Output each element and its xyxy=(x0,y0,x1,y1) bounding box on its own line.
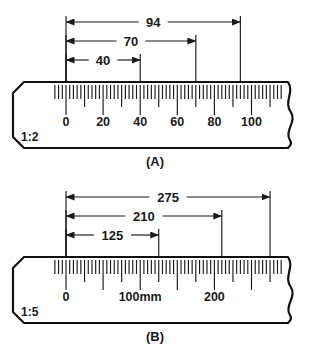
ruler-b-dimensions: 275210125 xyxy=(66,190,270,256)
scale-label-0: 0 xyxy=(63,115,70,129)
ruler-a-dimensions: 947040 xyxy=(66,15,240,81)
ruler-b-scale-ratio: 1:5 xyxy=(21,305,39,319)
ruler-a-caption: (A) xyxy=(146,154,164,169)
scale-label-100: 100 xyxy=(241,115,262,129)
dimension-label-275: 275 xyxy=(157,190,179,205)
dimension-label-125: 125 xyxy=(102,228,124,243)
ruler-b-caption: (B) xyxy=(146,329,164,344)
ruler-a-group: 0204060801001:2(A)947040 xyxy=(13,15,293,169)
ruler-b-group: 0100mm2001:5(B)275210125 xyxy=(13,190,293,344)
ruler-a-scale-ratio: 1:2 xyxy=(21,130,39,144)
figure-root: 0204060801001:2(A)947040 0100mm2001:5(B)… xyxy=(0,0,310,354)
scale-label-0: 0 xyxy=(63,290,70,304)
scale-label-20: 20 xyxy=(96,115,110,129)
dimension-label-40: 40 xyxy=(96,53,110,68)
dimension-label-210: 210 xyxy=(133,209,155,224)
scale-label-40: 40 xyxy=(133,115,147,129)
scale-label-80: 80 xyxy=(207,115,221,129)
technical-drawing-canvas: 0204060801001:2(A)947040 0100mm2001:5(B)… xyxy=(0,0,310,354)
dimension-label-70: 70 xyxy=(124,34,138,49)
scale-label-60: 60 xyxy=(170,115,184,129)
scale-label-200: 200 xyxy=(204,290,225,304)
scale-label-100: 100mm xyxy=(119,290,162,304)
dimension-label-94: 94 xyxy=(146,15,161,30)
